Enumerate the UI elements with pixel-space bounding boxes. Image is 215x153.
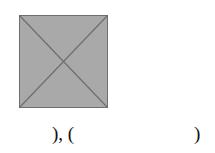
caption-left-text: ), ( bbox=[52, 122, 74, 146]
caption-right-text: ) bbox=[194, 122, 200, 146]
square-diagram bbox=[19, 15, 108, 108]
square-with-diagonals-icon bbox=[19, 15, 108, 108]
answer-blanks: ), ( ) bbox=[0, 122, 215, 146]
